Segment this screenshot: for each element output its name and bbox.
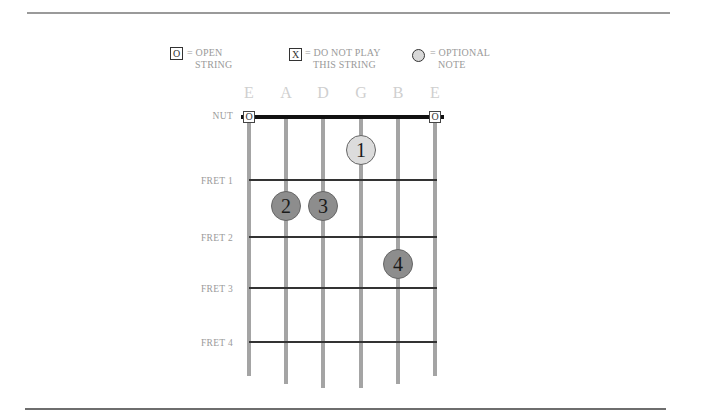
string-low-e	[247, 118, 251, 376]
fret-1-label: FRET 1	[173, 176, 233, 186]
open-string-legend-label: = OPEN STRING	[187, 47, 232, 71]
string-name-g: G	[351, 84, 371, 102]
fret-2	[249, 236, 437, 238]
string-name-a: A	[276, 84, 296, 102]
string-name-b: B	[388, 84, 408, 102]
mute-string-legend-label: = DO NOT PLAY THIS STRING	[305, 47, 381, 71]
optional-note-legend-icon	[412, 49, 425, 62]
top-divider	[27, 12, 670, 14]
string-high-e	[433, 118, 437, 376]
fret-4-label: FRET 4	[173, 338, 233, 348]
finger-2: 2	[271, 191, 301, 221]
fret-3	[249, 287, 437, 289]
open-string-marker-high-e: O	[429, 111, 441, 123]
string-name-high-e: E	[425, 84, 445, 102]
nut	[241, 115, 444, 119]
finger-4: 4	[383, 249, 413, 279]
fret-2-label: FRET 2	[173, 233, 233, 243]
finger-3: 3	[308, 191, 338, 221]
mute-string-legend-icon: X	[289, 48, 302, 61]
string-name-d: D	[313, 84, 333, 102]
string-a	[284, 118, 288, 384]
fret-3-label: FRET 3	[173, 284, 233, 294]
nut-label: NUT	[173, 111, 233, 121]
optional-note-legend-label: = OPTIONAL NOTE	[430, 47, 490, 71]
bottom-divider	[25, 408, 666, 410]
finger-1-optional: 1	[346, 135, 376, 165]
fret-1	[249, 179, 437, 181]
open-string-legend-icon: O	[170, 47, 183, 60]
fret-4	[249, 341, 437, 343]
string-name-low-e: E	[239, 84, 259, 102]
string-d	[321, 118, 325, 388]
open-string-marker-low-e: O	[243, 111, 255, 123]
